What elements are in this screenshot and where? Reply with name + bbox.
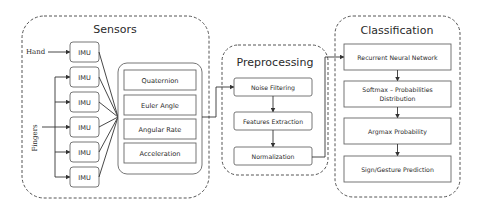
step-label-line2: Distribution: [379, 95, 415, 102]
classification-group: Classification Recurrent Neural Network …: [335, 16, 460, 197]
preprocessing-group: Preprocessing Noise Filtering Features E…: [222, 45, 328, 175]
imu-label: IMU: [78, 149, 91, 157]
step-argmax: Argmax Probability: [344, 118, 451, 144]
step-softmax: Softmax – Probabilities Distribution: [344, 81, 451, 107]
imu-fan-in-lines: [99, 52, 118, 177]
fingers-label: Fingers: [31, 124, 39, 152]
output-label: Euler Angle: [141, 102, 179, 110]
preprocessing-to-classification-arrow: [312, 57, 344, 157]
imu-unit: IMU: [70, 167, 99, 187]
step-sign-gesture-prediction: Sign/Gesture Prediction: [344, 156, 451, 182]
step-recurrent-neural-network: Recurrent Neural Network: [344, 44, 451, 70]
step-features-extraction: Features Extraction: [234, 112, 312, 130]
imu-label: IMU: [78, 74, 91, 82]
hand-label: Hand: [26, 48, 46, 56]
imu-label: IMU: [78, 99, 91, 107]
step-noise-filtering: Noise Filtering: [234, 78, 312, 96]
classification-title: Classification: [361, 24, 434, 37]
output-angular-rate: Angular Rate: [124, 119, 196, 139]
step-label: Features Extraction: [243, 118, 303, 125]
imu-unit: IMU: [70, 142, 99, 162]
step-box: [344, 81, 451, 107]
imu-label: IMU: [78, 49, 91, 57]
pipeline-diagram: Sensors Hand Fingers IMU IMU IMU IMU: [0, 0, 479, 210]
imu-unit: IMU: [70, 42, 99, 62]
imu-unit: IMU: [70, 92, 99, 112]
sensors-to-preprocessing-arrow: [202, 87, 234, 117]
step-normalization: Normalization: [234, 147, 312, 165]
output-label: Quaternion: [142, 77, 179, 85]
step-label: Noise Filtering: [251, 84, 295, 92]
output-label: Angular Rate: [139, 126, 182, 134]
output-label: Acceleration: [140, 150, 181, 158]
imu-unit: IMU: [70, 117, 99, 137]
imu-label: IMU: [78, 174, 91, 182]
step-label: Sign/Gesture Prediction: [361, 166, 434, 174]
imu-unit: IMU: [70, 67, 99, 87]
sensors-title: Sensors: [93, 23, 137, 36]
step-label: Softmax – Probabilities: [362, 86, 433, 93]
step-label: Argmax Probability: [368, 128, 427, 136]
output-acceleration: Acceleration: [124, 143, 196, 163]
sensors-group: Sensors Hand Fingers IMU IMU IMU IMU: [22, 16, 209, 198]
output-quaternion: Quaternion: [124, 70, 196, 90]
output-euler-angle: Euler Angle: [124, 95, 196, 115]
imu-label: IMU: [78, 124, 91, 132]
preprocessing-title: Preprocessing: [237, 56, 314, 69]
step-label: Normalization: [252, 153, 295, 160]
step-label: Recurrent Neural Network: [357, 54, 438, 61]
